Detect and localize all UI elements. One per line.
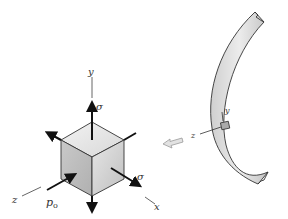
shell-y-label: y bbox=[224, 106, 230, 115]
shell-element-square bbox=[220, 121, 229, 130]
stress-element-diagram: y z y z x σ σ po bbox=[0, 0, 288, 219]
z-axis-label: z bbox=[11, 194, 18, 205]
sigma-y-label: σ bbox=[96, 101, 104, 112]
sigma-x-left-arrow bbox=[50, 134, 61, 140]
shell-z-label: z bbox=[190, 131, 196, 140]
sigma-x-label: σ bbox=[137, 171, 145, 182]
curved-shell bbox=[200, 12, 268, 184]
x-axis-label: x bbox=[154, 201, 160, 212]
y-axis-label: y bbox=[87, 66, 94, 77]
element-extraction-arrow-icon bbox=[163, 138, 183, 148]
pressure-label: po bbox=[46, 196, 58, 210]
z-axis-line bbox=[22, 187, 41, 196]
edge-stub-upper-right bbox=[124, 133, 136, 140]
